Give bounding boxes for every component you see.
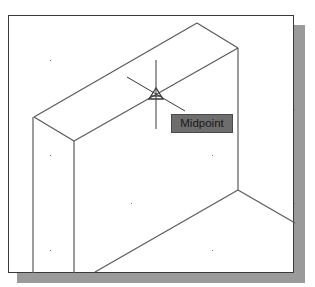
edge-base-right	[238, 190, 295, 223]
isometric-box	[33, 23, 295, 273]
edge-top-back-left	[34, 23, 197, 117]
edge-base-left	[95, 190, 238, 272]
drawing-canvas[interactable]	[0, 0, 315, 287]
edge-top-front-left	[34, 117, 74, 141]
edge-top-back-right	[197, 23, 238, 48]
snap-tooltip: Midpoint	[171, 114, 233, 133]
grid-dots	[50, 60, 295, 251]
